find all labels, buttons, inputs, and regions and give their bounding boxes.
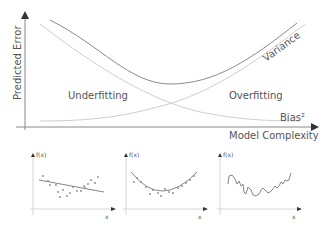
mini-x-label: x (198, 213, 202, 220)
linear-fit-line (39, 180, 104, 192)
mini-chart-good-fit: f(x) x (123, 151, 208, 220)
bias-variance-diagram: Predicted Error Model Complexity Underfi… (0, 0, 335, 226)
y-axis-arrow-icon (21, 11, 29, 19)
mini-y-label: f(x) (223, 151, 233, 158)
mini-y-arrow-icon (218, 153, 222, 157)
mini-x-label: x (292, 213, 296, 220)
mini-y-label: f(x) (36, 151, 46, 158)
mini-chart-overfit: f(x) x (217, 151, 302, 220)
overfitting-label: Overfitting (229, 90, 283, 101)
bias-squared-curve (40, 24, 300, 121)
overfit-wiggly-curve (228, 173, 291, 196)
x-axis-label: Model Complexity (229, 130, 319, 141)
mini-x-arrow-icon (111, 207, 116, 211)
bias-squared-label: Bias² (280, 112, 305, 123)
mini-x-label: x (105, 213, 109, 220)
mini-y-arrow-icon (124, 153, 128, 157)
mini-y-arrow-icon (31, 153, 35, 157)
mini-chart-underfit: f(x) x (30, 151, 116, 220)
y-axis-label: Predicted Error (12, 25, 23, 100)
mini-x-arrow-icon (297, 207, 302, 211)
mini-x-arrow-icon (203, 207, 208, 211)
total-error-curve (50, 20, 297, 84)
mini-y-label: f(x) (129, 151, 139, 158)
variance-curve (40, 24, 305, 121)
underfitting-label: Underfitting (68, 90, 128, 101)
